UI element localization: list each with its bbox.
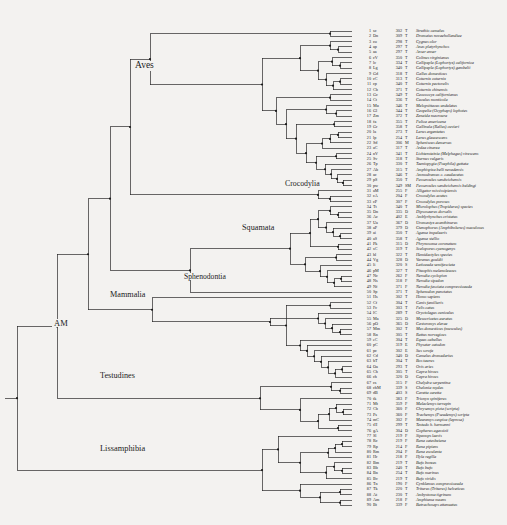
taxon-species-name: Batrachoseps attenuatus	[416, 502, 457, 507]
clade-label-lissamphibia: Lissamphibia	[98, 445, 147, 453]
clade-label-layer: AvesCrocodyliaSquamataSphenodontiaMammal…	[0, 0, 360, 525]
phylogenetic-figure: AvesCrocodyliaSquamataSphenodontiaMammal…	[0, 0, 507, 525]
taxa-list: 1sc302TStruthio camelus2Dn309TDromaius n…	[358, 28, 507, 508]
taxon-type: F	[405, 502, 416, 507]
taxon-number: 339	[387, 502, 405, 507]
taxon-code: Bt	[373, 502, 387, 507]
taxon-row: 90Bt339FBatrachoseps attenuatus	[358, 502, 507, 507]
clade-label-sphenodontia: Sphenodontia	[182, 273, 228, 281]
clade-label-crocodylia: Crocodylia	[283, 180, 322, 188]
clade-label-squamata: Squamata	[240, 224, 276, 232]
clade-label-mammalia: Mammalia	[108, 291, 147, 299]
clade-label-am: AM	[52, 319, 70, 328]
clade-label-testudines: Testudines	[98, 372, 137, 380]
clade-label-aves: Aves	[133, 61, 156, 71]
taxon-index: 90	[358, 502, 373, 507]
